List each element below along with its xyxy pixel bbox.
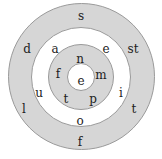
outer-letter: s [78,10,84,22]
outer-letter: l [22,103,26,115]
second-ring-letter: e [102,43,109,55]
third-ring-letter: n [76,53,84,65]
third-ring-letter: m [95,69,106,81]
concentric-circle-diagram: s st t f l d e i o u a n m p t f e [0,0,162,159]
third-ring-letter: t [64,93,69,105]
second-ring-letter: a [51,43,58,55]
outer-letter: st [128,43,139,55]
outer-letter: d [23,43,31,55]
second-ring-letter: i [119,87,123,99]
center-letter: e [77,75,84,87]
second-ring-letter: o [76,115,83,127]
third-ring-letter: f [56,68,60,80]
outer-letter: t [132,103,137,115]
third-ring-letter: p [89,93,97,105]
second-ring-letter: u [35,87,43,99]
outer-letter: f [78,136,82,148]
